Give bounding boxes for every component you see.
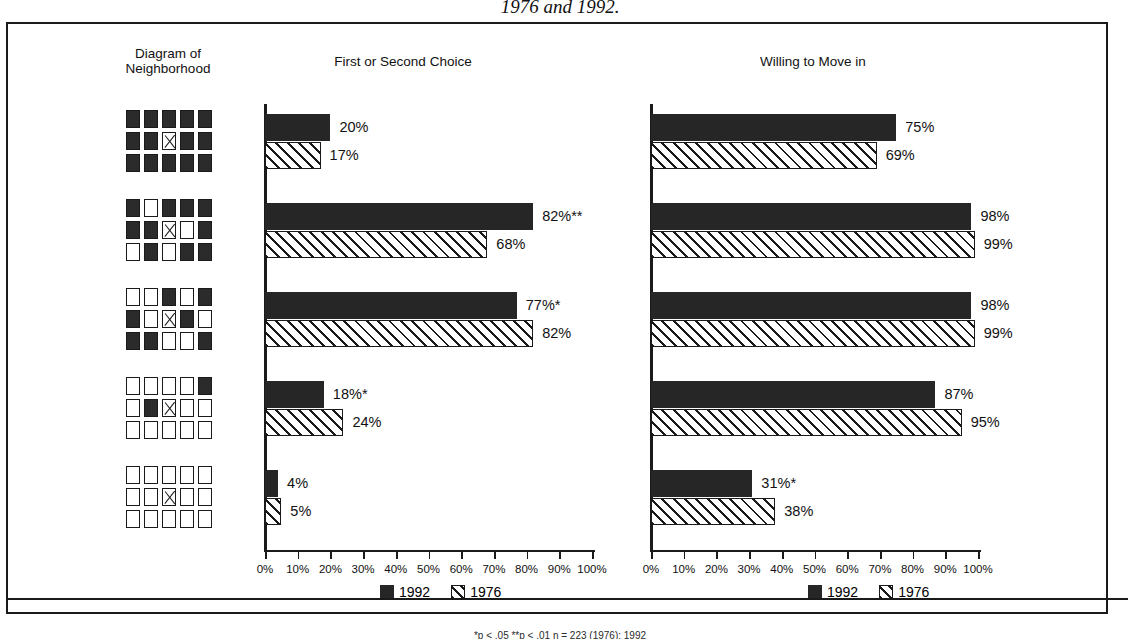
- house-empty-icon: [198, 399, 212, 417]
- footnote: *p < .05 **p < .01 n = 223 (1976); 1992: [0, 630, 1120, 639]
- house-filled-icon: [126, 332, 140, 350]
- house-empty-icon: [126, 421, 140, 439]
- x-axis-tick: [880, 551, 882, 559]
- house-empty-icon: [144, 510, 158, 528]
- x-axis-tick: [396, 551, 398, 559]
- x-axis-tick: [945, 551, 947, 559]
- bar-1976-mostly-white: [651, 409, 962, 436]
- bar-1992-all-white: [265, 470, 278, 497]
- legend-swatch-1992: [380, 585, 394, 599]
- bar-value-label: 99%: [984, 236, 1013, 252]
- bar-1992-mostly-white: [651, 381, 935, 408]
- x-axis-tick: [559, 551, 561, 559]
- legend-swatch-1976: [451, 585, 465, 599]
- diagram-row: [126, 199, 238, 217]
- house-filled-icon: [198, 221, 212, 239]
- house-filled-icon: [126, 221, 140, 239]
- house-marked-icon: [162, 310, 176, 328]
- x-axis-tick: [978, 551, 980, 559]
- bar-1976-mostly-black: [651, 231, 975, 258]
- column-header-first-or-second-choice: First or Second Choice: [238, 54, 568, 69]
- house-empty-icon: [144, 310, 158, 328]
- x-axis-tick: [651, 551, 653, 559]
- x-axis-tick: [461, 551, 463, 559]
- house-empty-icon: [162, 332, 176, 350]
- diagram-row: [126, 243, 238, 261]
- diagram-row: [126, 510, 238, 528]
- bar-value-label: 98%: [980, 297, 1009, 313]
- house-marked-icon: [162, 221, 176, 239]
- diagram-row: [126, 421, 238, 439]
- house-empty-icon: [198, 310, 212, 328]
- house-empty-icon: [144, 466, 158, 484]
- house-empty-icon: [180, 332, 194, 350]
- house-filled-icon: [180, 132, 194, 150]
- diagram-row: [126, 154, 238, 172]
- diagram-row: [126, 310, 238, 328]
- bar-1976-mixed: [651, 320, 975, 347]
- bar-value-label: 95%: [971, 414, 1000, 430]
- x-axis-tick-label: 100%: [572, 563, 612, 575]
- bar-value-label: 75%: [905, 119, 934, 135]
- bar-1976-all-black: [265, 142, 321, 169]
- diagram-all-white: [126, 466, 238, 532]
- bar-1976-all-black: [651, 142, 877, 169]
- bar-value-label: 18%*: [333, 386, 368, 402]
- x-axis-tick: [592, 551, 594, 559]
- chart-first-or-second-choice: 0%10%20%30%40%50%60%70%80%90%100%20%17%8…: [264, 104, 604, 564]
- x-axis-tick: [749, 551, 751, 559]
- house-empty-icon: [144, 288, 158, 306]
- x-axis-tick: [494, 551, 496, 559]
- house-filled-icon: [180, 110, 194, 128]
- bar-1976-mixed: [265, 320, 533, 347]
- bar-1992-mixed: [651, 292, 971, 319]
- house-filled-icon: [126, 110, 140, 128]
- house-filled-icon: [180, 310, 194, 328]
- house-empty-icon: [126, 399, 140, 417]
- chart-willing-to-move-in: 0%10%20%30%40%50%60%70%80%90%100%75%69%9…: [650, 104, 990, 564]
- x-axis-tick: [429, 551, 431, 559]
- bar-value-label: 38%: [784, 503, 813, 519]
- house-filled-icon: [144, 132, 158, 150]
- x-axis-tick: [782, 551, 784, 559]
- x-axis-tick: [298, 551, 300, 559]
- house-empty-icon: [180, 466, 194, 484]
- house-filled-icon: [144, 332, 158, 350]
- column-header-diagram-line2: Neighborhood: [78, 61, 258, 76]
- bar-value-label: 82%**: [542, 208, 582, 224]
- house-filled-icon: [198, 243, 212, 261]
- house-empty-icon: [126, 488, 140, 506]
- bar-value-label: 82%: [542, 325, 571, 341]
- x-axis-tick-label: 100%: [958, 563, 998, 575]
- house-filled-icon: [144, 221, 158, 239]
- house-marked-icon: [162, 488, 176, 506]
- house-filled-icon: [144, 154, 158, 172]
- x-axis-tick: [527, 551, 529, 559]
- legend-swatch-1992: [808, 585, 822, 599]
- house-filled-icon: [162, 154, 176, 172]
- house-empty-icon: [198, 421, 212, 439]
- house-filled-icon: [180, 243, 194, 261]
- bar-value-label: 77%*: [526, 297, 561, 313]
- house-empty-icon: [198, 466, 212, 484]
- bar-1992-mixed: [265, 292, 517, 319]
- house-empty-icon: [144, 488, 158, 506]
- bar-1976-all-white: [265, 498, 281, 525]
- house-empty-icon: [162, 377, 176, 395]
- house-empty-icon: [126, 377, 140, 395]
- diagram-mixed: [126, 288, 238, 354]
- house-filled-icon: [198, 154, 212, 172]
- bar-1976-mostly-black: [265, 231, 487, 258]
- x-axis-tick: [265, 551, 267, 559]
- column-header-diagram: Diagram of Neighborhood: [78, 46, 258, 76]
- bar-1976-mostly-white: [265, 409, 343, 436]
- house-filled-icon: [144, 399, 158, 417]
- house-empty-icon: [162, 243, 176, 261]
- x-axis-tick: [716, 551, 718, 559]
- house-empty-icon: [126, 243, 140, 261]
- legend-swatch-1976: [879, 585, 893, 599]
- house-filled-icon: [198, 288, 212, 306]
- house-empty-icon: [144, 199, 158, 217]
- diagram-row: [126, 332, 238, 350]
- house-filled-icon: [198, 132, 212, 150]
